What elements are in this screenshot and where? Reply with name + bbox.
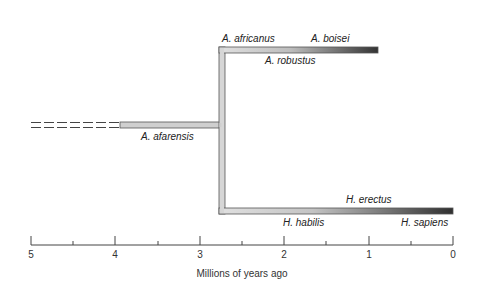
tick-label-3: 3 xyxy=(197,249,203,260)
label-habilis: H. habilis xyxy=(283,217,324,228)
homo-branch-bar xyxy=(219,208,453,214)
label-boisei: A. boisei xyxy=(311,33,349,44)
label-africanus: A. africanus xyxy=(222,33,275,44)
tick-label-4: 4 xyxy=(112,249,118,260)
tick-label-5: 5 xyxy=(28,249,34,260)
time-axis xyxy=(31,236,453,245)
axis-title: Millions of years ago xyxy=(196,268,287,279)
robust-branch-bar xyxy=(219,47,378,53)
label-robustus: A. robustus xyxy=(265,55,316,66)
label-afarensis: A. afarensis xyxy=(141,131,194,142)
tick-label-2: 2 xyxy=(281,249,287,260)
dashed-ancestry-lines xyxy=(31,123,120,128)
tick-label-1: 1 xyxy=(366,249,372,260)
label-erectus: H. erectus xyxy=(346,194,392,205)
tick-label-0: 0 xyxy=(450,249,456,260)
afarensis-bar xyxy=(120,122,222,128)
label-sapiens: H. sapiens xyxy=(401,217,448,228)
